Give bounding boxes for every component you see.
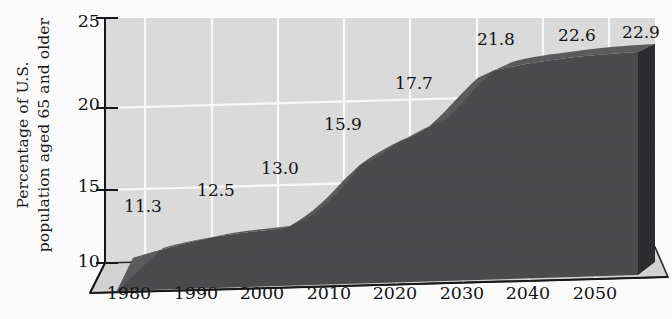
x-tick-label-2020: 2020 (360, 283, 430, 303)
value-label-2010: 15.9 (313, 114, 373, 134)
value-label-2050: 22.9 (611, 22, 671, 42)
x-tick-label-2010: 2010 (294, 283, 364, 303)
value-label-2030: 21.8 (466, 29, 526, 49)
value-label-2000: 13.0 (250, 158, 310, 178)
x-tick-label-1990: 1990 (161, 283, 231, 303)
x-tick-label-2050: 2050 (560, 283, 630, 303)
area-series-right-side-face (638, 44, 655, 275)
x-tick-label-2000: 2000 (227, 283, 297, 303)
x-tick-label-2040: 2040 (493, 283, 563, 303)
plot-area (0, 0, 672, 319)
chart-container: Percentage of U.S. population aged 65 an… (0, 0, 672, 319)
value-label-1980: 11.3 (113, 196, 173, 216)
value-label-2020: 17.7 (384, 73, 444, 93)
value-label-1990: 12.5 (186, 180, 246, 200)
value-label-2040: 22.6 (547, 25, 607, 45)
x-tick-label-1980: 1980 (94, 283, 164, 303)
x-axis-tick-labels: 1980 1990 2000 2010 2020 2030 2040 2050 (0, 283, 672, 319)
x-tick-label-2030: 2030 (427, 283, 497, 303)
